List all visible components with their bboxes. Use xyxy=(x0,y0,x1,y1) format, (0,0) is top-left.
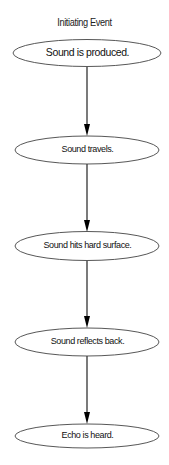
node-label-sound-travels: Sound travels. xyxy=(3,144,169,154)
node-label-sound-hits-surface: Sound hits hard surface. xyxy=(3,240,169,250)
node-label-echo-heard: Echo is heard. xyxy=(3,430,169,440)
arrow-down-icon xyxy=(84,316,90,328)
edge-hits-to-reflects xyxy=(84,261,90,328)
node-label-sound-reflects: Sound reflects back. xyxy=(3,336,169,346)
node-label-sound-produced: Sound is produced. xyxy=(3,46,169,58)
arrow-down-icon xyxy=(84,220,90,232)
edge-travels-to-hits xyxy=(84,164,90,232)
arrow-down-icon xyxy=(84,412,90,424)
edge-reflects-to-echo xyxy=(84,356,90,424)
arrow-down-icon xyxy=(84,124,90,136)
flowchart-canvas xyxy=(0,0,169,465)
edge-produced-to-travels xyxy=(84,67,90,136)
